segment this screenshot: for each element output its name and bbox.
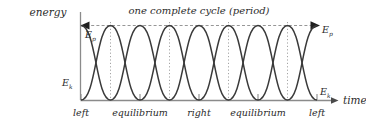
x-tick-label-2: right (187, 107, 211, 118)
potential-energy-label-left: Ep (84, 29, 96, 43)
kinetic-energy-label-left-main: E (61, 77, 69, 88)
potential-energy-label-left-main: E (84, 29, 92, 40)
potential-energy-label-left-sub: p (92, 35, 96, 43)
time-axis-arrowhead (331, 97, 339, 103)
potential-energy-label-right-sub: p (329, 30, 333, 38)
x-tick-label-1: equilibrium (112, 107, 168, 118)
energy-time-diagram: energy time one complete cycle (period) … (0, 0, 366, 130)
figure-container: energy time one complete cycle (period) … (0, 0, 366, 130)
kinetic-energy-label-right-main: E (319, 86, 327, 97)
kinetic-energy-label-right-sub: k (327, 92, 331, 99)
kinetic-energy-label-right: Ek (319, 86, 331, 99)
x-axis-label: time (343, 94, 366, 106)
x-tick-label-4: left (309, 107, 325, 118)
potential-energy-curve (81, 26, 317, 101)
potential-energy-label-right-main: E (321, 24, 329, 35)
x-tick-label-0: left (73, 107, 89, 118)
x-tick-label-3: equilibrium (230, 107, 286, 118)
y-axis-label: energy (30, 6, 68, 18)
potential-energy-label-right: Ep (321, 24, 333, 38)
kinetic-energy-label-left-sub: k (69, 83, 73, 90)
period-annotation-label: one complete cycle (period) (129, 5, 270, 16)
kinetic-energy-label-left: Ek (61, 77, 73, 90)
kinetic-energy-curve (81, 26, 317, 101)
